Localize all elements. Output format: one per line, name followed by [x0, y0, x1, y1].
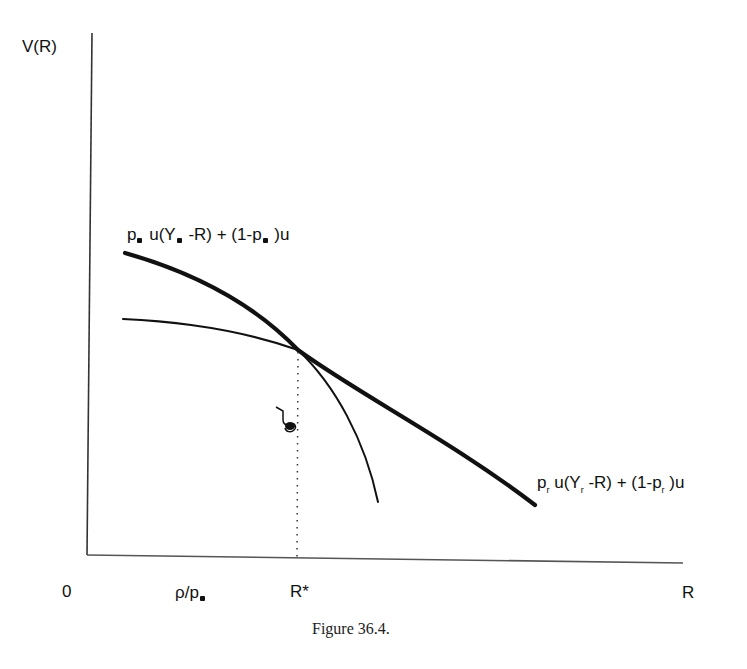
- subscript-s: [263, 238, 268, 243]
- subscript-r: r: [581, 485, 584, 495]
- x-axis-label: R: [682, 584, 694, 601]
- y-axis: [87, 33, 92, 555]
- label-part: )u: [270, 225, 290, 244]
- curve-thin: [123, 319, 378, 502]
- origin-label: 0: [62, 583, 71, 600]
- subscript-s: [177, 238, 182, 243]
- x-tick-r-star: R*: [290, 583, 309, 600]
- label-part: u(Y: [549, 473, 580, 492]
- x-axis: [87, 555, 683, 563]
- label-part: -R) + (1-p: [184, 225, 262, 244]
- label-part: u(Y: [144, 225, 175, 244]
- subscript-s: [137, 238, 142, 243]
- figure: V(R) p u(Y -R) + (1-p )u pr u(Yr -R) + (…: [0, 0, 747, 669]
- subscript-r: r: [662, 485, 665, 495]
- tick-text: ρ/p: [175, 583, 199, 602]
- curve-thick-label: p u(Y -R) + (1-p )u: [127, 226, 289, 243]
- label-part: )u: [665, 473, 685, 492]
- curve-thick: [125, 253, 535, 505]
- subscript-s: [200, 596, 205, 601]
- x-tick-rho-over-ps: ρ/p: [175, 584, 207, 601]
- y-axis-label: V(R): [22, 38, 57, 55]
- curve-thin-label: pr u(Yr -R) + (1-pr )u: [537, 474, 684, 491]
- label-part: -R) + (1-p: [584, 473, 662, 492]
- r-star-dotted-line: [297, 352, 298, 557]
- label-part: p: [127, 225, 136, 244]
- ink-blot: [285, 422, 295, 430]
- figure-caption: Figure 36.4.: [312, 620, 390, 638]
